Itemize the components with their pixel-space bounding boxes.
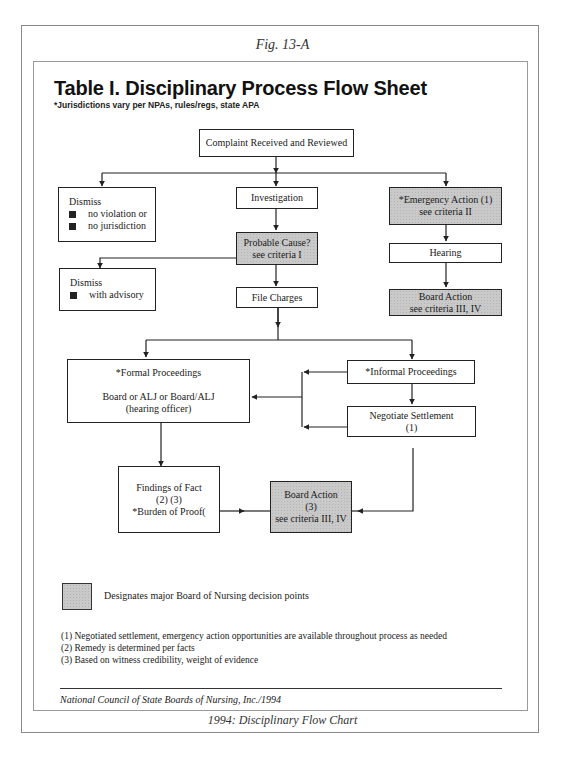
node-hearing: Hearing [389,243,502,263]
node-emergency-line2: see criteria II [419,206,472,218]
node-complaint-label: Complaint Received and Reviewed [206,137,347,149]
node-findings-line1: Findings of Fact [136,482,202,494]
node-findings-line3: *Burden of Proof( [132,506,205,518]
footnote-2: (2) Remedy is determined per facts [61,642,447,654]
bullet-icon [70,292,77,299]
node-informal-proceedings: *Informal Proceedings [347,360,475,384]
legend-text: Designates major Board of Nursing decisi… [104,590,309,601]
node-investigation: Investigation [236,187,318,209]
node-emergency-line1: *Emergency Action (1) [399,194,493,206]
legend-swatch [62,583,92,610]
dismiss1-bullet-2-text: no jurisdiction [88,220,146,231]
node-formal-line4: (hearing officer) [126,403,192,415]
node-boardaction1-line1: Board Action [419,291,473,303]
footnote-1: (1) Negotiated settlement, emergency act… [61,630,447,642]
node-formal-line1: *Formal Proceedings [116,367,201,379]
node-formal-line3: Board or ALJ or Board/ALJ [102,391,214,403]
node-file-charges: File Charges [236,287,318,308]
node-complaint: Complaint Received and Reviewed [199,129,354,157]
footnote-3: (3) Based on witness credibility, weight… [61,654,447,666]
node-boardaction2-line2: (3) [305,501,317,513]
divider [60,688,502,689]
dismiss1-bullet-1: no violation or [69,208,147,220]
node-dismiss-with-advisory: Dismiss with advisory [59,268,156,311]
node-negotiate-settlement: Negotiate Settlement (1) [347,406,476,437]
node-probable-cause: Probable Cause? see criteria I [236,232,318,265]
node-negotiate-line1: Negotiate Settlement [369,410,453,422]
credit-line: National Council of State Boards of Nurs… [60,694,281,705]
dismiss1-bullet-2: no jurisdiction [69,220,146,232]
connector-probable-dismiss2 [100,258,236,268]
connector-negotiate-boardaction [358,448,413,511]
dismiss2-bullet-1-text: with advisory [89,289,144,300]
node-emergency-action: *Emergency Action (1) see criteria II [389,187,502,225]
node-informal-label: *Informal Proceedings [365,366,456,378]
node-negotiate-line2: (1) [406,422,418,434]
node-boardaction2-line3: see criteria III, IV [275,513,347,525]
figure-caption: 1994: Disciplinary Flow Chart [0,713,565,728]
node-dismiss-no-violation: Dismiss no violation or no jurisdiction [58,187,156,242]
node-board-action-1: Board Action see criteria III, IV [389,289,502,316]
bullet-icon [69,223,76,230]
node-filecharges-label: File Charges [252,292,303,304]
node-formal-proceedings: *Formal Proceedings Board or ALJ or Boar… [67,359,250,423]
node-boardaction2-line1: Board Action [284,489,338,501]
bullet-icon [69,211,76,218]
dismiss2-heading: Dismiss [70,277,102,289]
node-investigation-label: Investigation [251,192,303,204]
footnotes: (1) Negotiated settlement, emergency act… [61,630,447,666]
dismiss1-heading: Dismiss [69,196,101,208]
node-findings-line2: (2) (3) [156,494,182,506]
node-probable-line2: see criteria I [252,249,301,261]
node-probable-line1: Probable Cause? [244,237,311,249]
node-board-action-2: Board Action (3) see criteria III, IV [270,481,352,533]
dismiss1-bullet-1-text: no violation or [88,208,147,219]
dismiss2-bullet-1: with advisory [70,289,144,301]
node-boardaction1-line2: see criteria III, IV [410,303,482,315]
node-hearing-label: Hearing [429,247,461,259]
node-findings-of-fact: Findings of Fact (2) (3) *Burden of Proo… [118,466,220,533]
